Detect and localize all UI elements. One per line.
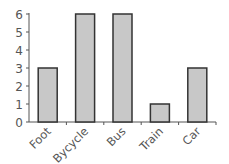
- y-tick-label: 2: [15, 80, 23, 94]
- y-tick-label: 3: [15, 62, 23, 76]
- bar-foot: [38, 68, 57, 122]
- y-tick-label: 5: [15, 26, 23, 40]
- x-tick-label: Foot: [26, 124, 54, 152]
- bar-train: [150, 104, 169, 122]
- x-tick-label: Bycycle: [50, 124, 91, 164]
- bar-chart: 0123456FootBycycleBusTrainCar: [0, 0, 229, 164]
- x-tick-label: Train: [136, 124, 166, 154]
- y-tick-label: 6: [15, 8, 23, 22]
- bar-car: [188, 68, 207, 122]
- x-tick-label: Car: [180, 124, 204, 148]
- bar-bycycle: [76, 14, 95, 122]
- x-tick-label: Bus: [104, 124, 129, 149]
- y-tick-label: 1: [15, 98, 23, 112]
- bar-bus: [113, 14, 132, 122]
- y-tick-label: 0: [15, 116, 23, 130]
- y-tick-label: 4: [15, 44, 23, 58]
